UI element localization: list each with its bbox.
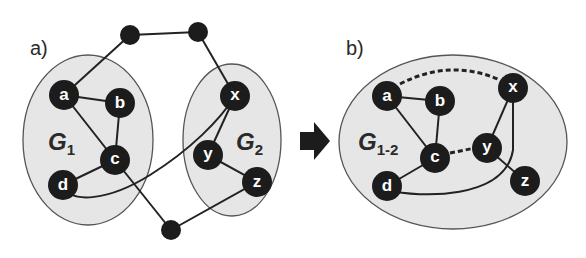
- svg-text:a: a: [382, 86, 392, 105]
- node-x: x: [498, 73, 528, 103]
- svg-text:b: b: [115, 93, 125, 112]
- node-z: z: [510, 166, 540, 196]
- panel-a-label: a): [30, 37, 48, 59]
- svg-text:d: d: [58, 175, 68, 194]
- node-a: a: [372, 81, 402, 111]
- edge-ext1-ext2: [130, 32, 198, 35]
- right-arrow-icon: [300, 122, 330, 160]
- node-b: b: [105, 88, 135, 118]
- svg-text:y: y: [203, 144, 213, 163]
- svg-text:z: z: [521, 171, 530, 190]
- panel-b: b) a b c d x y z G1-2: [339, 37, 567, 229]
- node-c: c: [420, 143, 450, 173]
- node-y: y: [472, 133, 502, 163]
- svg-text:a: a: [59, 85, 69, 104]
- panel-b-label: b): [346, 37, 364, 59]
- svg-text:c: c: [110, 149, 119, 168]
- node-a: a: [49, 80, 79, 110]
- svg-text:x: x: [230, 85, 240, 104]
- node-x: x: [220, 81, 250, 111]
- external-node-1: [120, 25, 140, 45]
- external-node-3: [161, 220, 181, 240]
- panel-a: a) a b c d x y z G1 G2: [23, 22, 281, 240]
- node-b: b: [425, 86, 455, 116]
- node-d: d: [48, 170, 78, 200]
- svg-text:z: z: [253, 172, 262, 191]
- graph-contraction-figure: a) a b c d x y z G1 G2: [0, 0, 586, 258]
- svg-text:x: x: [508, 77, 518, 96]
- graph-g1-region: [23, 55, 153, 225]
- node-d: d: [372, 171, 402, 201]
- svg-text:b: b: [435, 91, 445, 110]
- external-node-2: [188, 22, 208, 42]
- node-z: z: [242, 167, 272, 197]
- node-y: y: [193, 140, 223, 170]
- svg-text:y: y: [482, 137, 492, 156]
- svg-text:d: d: [382, 176, 392, 195]
- svg-text:c: c: [430, 147, 439, 166]
- node-c: c: [100, 145, 130, 175]
